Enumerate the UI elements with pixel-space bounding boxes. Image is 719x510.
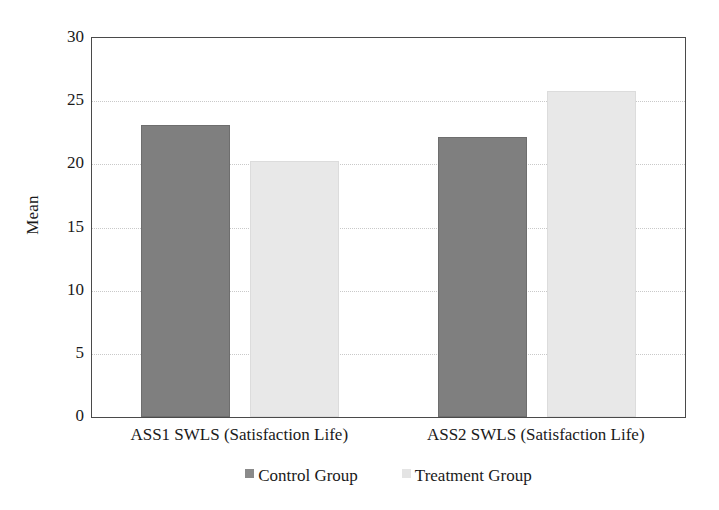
legend-swatch-icon — [402, 469, 411, 478]
chart-legend: Control GroupTreatment Group — [91, 462, 686, 490]
y-axis-tick-label: 5 — [30, 344, 84, 361]
plot-area — [91, 37, 686, 418]
bar — [141, 125, 230, 417]
bar — [438, 137, 527, 417]
bar-chart-figure: Mean 051015202530 ASS1 SWLS (Satisfactio… — [0, 0, 719, 510]
y-axis-tick-label: 20 — [30, 154, 84, 171]
y-axis-tick-labels: 051015202530 — [24, 37, 84, 418]
legend-item-label: Treatment Group — [415, 466, 532, 486]
bar — [547, 91, 636, 417]
legend-item[interactable]: Treatment Group — [402, 466, 532, 486]
bar — [250, 161, 339, 417]
y-axis-tick-label: 25 — [30, 91, 84, 108]
x-axis-tick-label: ASS1 SWLS (Satisfaction Life) — [91, 424, 388, 446]
y-axis-tick-label: 10 — [30, 281, 84, 298]
legend-item-label: Control Group — [258, 466, 358, 486]
y-axis-tick-label: 0 — [30, 407, 84, 424]
x-axis-tick-label: ASS2 SWLS (Satisfaction Life) — [388, 424, 685, 446]
legend-swatch-icon — [245, 469, 254, 478]
legend-item[interactable]: Control Group — [245, 466, 358, 486]
x-axis-tick-labels: ASS1 SWLS (Satisfaction Life)ASS2 SWLS (… — [91, 424, 686, 454]
y-axis-tick-label: 30 — [30, 28, 84, 45]
y-axis-tick-label: 15 — [30, 218, 84, 235]
